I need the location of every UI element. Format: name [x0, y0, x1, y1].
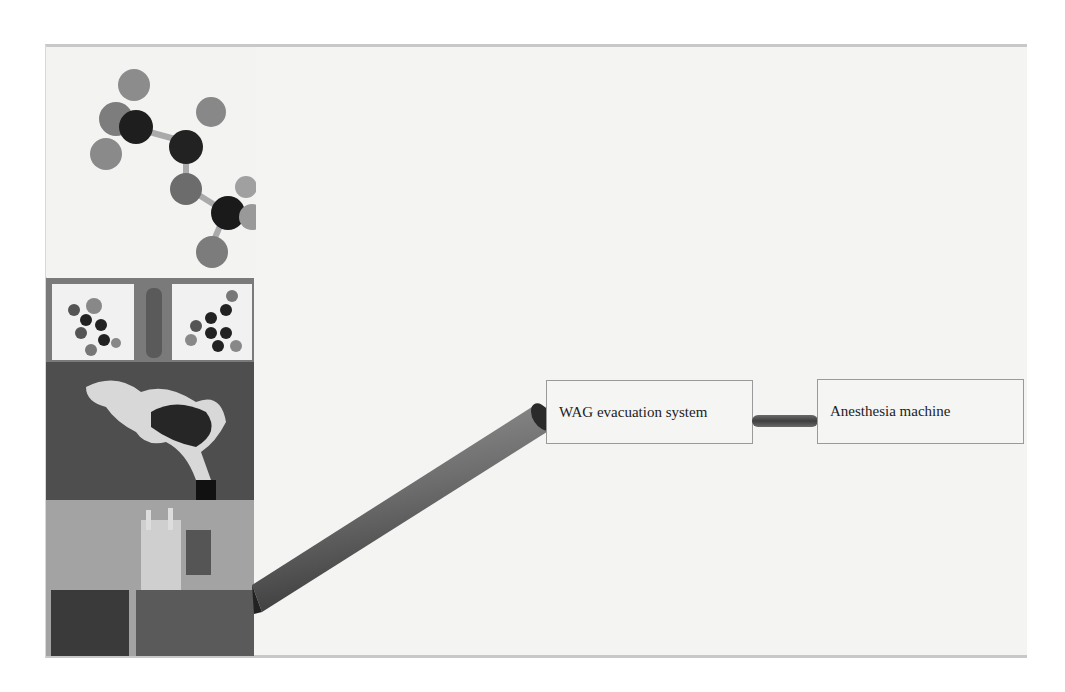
connector-tube: [752, 415, 818, 427]
anesthesia-machine-label: Anesthesia machine: [830, 403, 950, 420]
wag-evacuation-system-node: WAG evacuation system: [546, 380, 753, 444]
evacuation-tube: [0, 0, 1065, 692]
wag-evacuation-system-label: WAG evacuation system: [559, 404, 707, 421]
anesthesia-machine-node: Anesthesia machine: [817, 379, 1024, 444]
